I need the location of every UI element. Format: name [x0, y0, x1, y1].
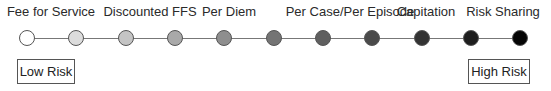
label-per-diem: Per Diem	[202, 4, 256, 19]
spectrum-node-4	[167, 30, 183, 46]
spectrum-node-9	[414, 30, 430, 46]
spectrum-node-10	[463, 30, 479, 46]
label-capitation: Capitation	[397, 4, 456, 19]
label-fee-for-service: Fee for Service	[7, 4, 95, 19]
spectrum-node-1	[19, 30, 35, 46]
spectrum-node-11	[512, 30, 528, 46]
low-risk-box: Low Risk	[17, 59, 75, 84]
high-risk-box: High Risk	[468, 59, 530, 84]
spectrum-node-8	[364, 30, 380, 46]
label-per-case-per-episode: Per Case/Per Episode	[286, 4, 415, 19]
spectrum-node-7	[315, 30, 331, 46]
label-discounted-ffs: Discounted FFS	[103, 4, 196, 19]
spectrum-node-2	[68, 30, 84, 46]
label-risk-sharing: Risk Sharing	[466, 4, 540, 19]
spectrum-node-6	[266, 30, 282, 46]
spectrum-node-5	[216, 30, 232, 46]
spectrum-node-3	[118, 30, 134, 46]
